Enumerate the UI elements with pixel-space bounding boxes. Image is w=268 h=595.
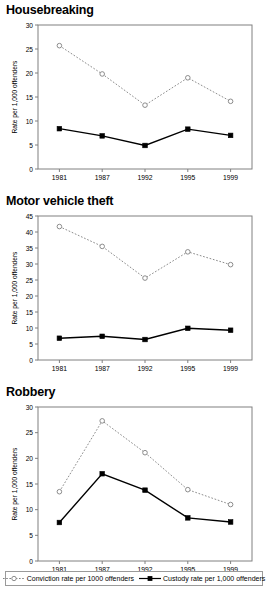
y-axis-tick-label: 5	[29, 142, 33, 149]
y-axis-tick-label: 25	[26, 277, 34, 284]
x-axis-tick-label: 1987	[95, 365, 110, 372]
data-point-open-circle	[143, 276, 148, 281]
line-chart-svg: 051015202530Rate per 1,000 offenders1981…	[0, 401, 268, 583]
y-axis-tick-label: 10	[26, 325, 34, 332]
chart-legend: Conviction rate per 1000 offenders Custo…	[5, 571, 263, 586]
y-axis-tick-label: 30	[26, 261, 34, 268]
x-axis-tick-label: 1992	[137, 174, 152, 181]
data-point-filled-square	[100, 134, 105, 139]
line-chart-svg: 051015202530Rate per 1,000 offenders1981…	[0, 19, 268, 191]
y-axis-tick-label: 45	[26, 213, 34, 220]
y-axis-tick-label: 20	[26, 455, 34, 462]
y-axis-tick-label: 30	[26, 22, 34, 29]
y-axis-title: Rate per 1,000 offenders	[11, 447, 19, 521]
data-point-open-circle	[228, 262, 233, 267]
y-axis-tick-label: 20	[26, 70, 34, 77]
chart-title: Robbery	[0, 382, 268, 401]
x-axis-tick-label: 1981	[52, 174, 67, 181]
data-point-open-circle	[100, 72, 105, 77]
y-axis-tick-label: 0	[29, 166, 33, 173]
y-axis-tick-label: 0	[29, 357, 33, 364]
data-point-open-circle	[143, 450, 148, 455]
y-axis-title: Rate per 1,000 offenders	[11, 60, 19, 134]
y-axis-tick-label: 0	[29, 558, 33, 565]
legend-entries: Conviction rate per 1000 offenders Custo…	[3, 574, 266, 583]
y-axis-tick-label: 25	[26, 46, 34, 53]
y-axis-tick-label: 35	[26, 245, 34, 252]
data-point-open-circle	[57, 43, 62, 48]
legend-label-conviction: Conviction rate per 1000 offenders	[27, 574, 134, 583]
chart-plot-area: 051015202530354045Rate per 1,000 offende…	[0, 210, 268, 382]
y-axis-tick-label: 30	[26, 404, 34, 411]
data-point-open-circle	[57, 224, 62, 229]
chart-title: Housebreaking	[0, 0, 268, 19]
data-point-filled-square	[143, 143, 148, 148]
y-axis-tick-label: 15	[26, 94, 34, 101]
data-point-filled-square	[228, 520, 233, 525]
y-axis-tick-label: 20	[26, 293, 34, 300]
data-point-open-circle	[228, 99, 233, 104]
data-point-open-circle	[186, 250, 191, 255]
y-axis-title: Rate per 1,000 offenders	[11, 251, 19, 325]
data-point-filled-square	[228, 133, 233, 138]
data-point-filled-square	[228, 328, 233, 333]
x-axis-tick-label: 1987	[95, 174, 110, 181]
data-point-filled-square	[186, 326, 191, 331]
y-axis-tick-label: 5	[29, 532, 33, 539]
data-point-open-circle	[100, 419, 105, 424]
data-point-filled-square	[57, 126, 62, 131]
chart-figure: Housebreaking 051015202530Rate per 1,000…	[0, 0, 268, 595]
data-point-filled-square	[57, 520, 62, 525]
chart-panel-motor-vehicle-theft: Motor vehicle theft 051015202530354045Ra…	[0, 191, 268, 382]
data-point-filled-square	[57, 336, 62, 341]
data-point-filled-square	[186, 516, 191, 521]
chart-panel-housebreaking: Housebreaking 051015202530Rate per 1,000…	[0, 0, 268, 191]
data-point-open-circle	[100, 244, 105, 249]
legend-entry-custody: Custody rate per 1,000 offenders	[139, 574, 265, 583]
y-axis-tick-label: 25	[26, 429, 34, 436]
legend-entry-conviction: Conviction rate per 1000 offenders	[3, 574, 134, 583]
data-point-open-circle	[57, 489, 62, 494]
data-point-filled-square	[143, 488, 148, 493]
chart-title: Motor vehicle theft	[0, 191, 268, 210]
x-axis-tick-label: 1981	[52, 365, 67, 372]
open-circle-icon	[3, 574, 25, 583]
y-axis-tick-label: 5	[29, 341, 33, 348]
data-point-open-circle	[228, 502, 233, 507]
data-point-open-circle	[143, 103, 148, 108]
x-axis-tick-label: 1999	[223, 174, 238, 181]
x-axis-tick-label: 1992	[137, 365, 152, 372]
x-axis-tick-label: 1995	[180, 365, 195, 372]
data-point-filled-square	[186, 127, 191, 132]
data-point-filled-square	[143, 337, 148, 342]
line-chart-svg: 051015202530354045Rate per 1,000 offende…	[0, 210, 268, 382]
y-axis-tick-label: 10	[26, 506, 34, 513]
data-point-open-circle	[186, 487, 191, 492]
x-axis-tick-label: 1999	[223, 365, 238, 372]
x-axis-tick-label: 1995	[180, 174, 195, 181]
chart-panel-robbery: Robbery 051015202530Rate per 1,000 offen…	[0, 382, 268, 583]
y-axis-tick-label: 10	[26, 118, 34, 125]
chart-plot-area: 051015202530Rate per 1,000 offenders1981…	[0, 19, 268, 191]
data-point-filled-square	[100, 471, 105, 476]
chart-plot-area: 051015202530Rate per 1,000 offenders1981…	[0, 401, 268, 583]
legend-label-custody: Custody rate per 1,000 offenders	[163, 574, 265, 583]
data-point-filled-square	[100, 334, 105, 339]
y-axis-tick-label: 15	[26, 481, 34, 488]
data-point-open-circle	[186, 76, 191, 81]
y-axis-tick-label: 15	[26, 309, 34, 316]
y-axis-tick-label: 40	[26, 229, 34, 236]
filled-square-icon	[139, 574, 161, 583]
